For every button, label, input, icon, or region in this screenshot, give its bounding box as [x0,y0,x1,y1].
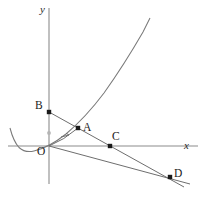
point-marker-B [47,110,51,114]
parabola-curve [10,18,150,152]
point-marker-faint [47,131,51,135]
secant-line-BACD [49,112,184,187]
point-label-C: C [112,131,120,143]
point-label-B: B [35,100,43,112]
origin-label: O [37,146,45,158]
point-label-A: A [83,122,91,134]
point-marker-A [76,126,80,130]
point-label-D: D [174,168,182,180]
point-marker-D [168,175,172,179]
point-marker-C [108,144,112,148]
x-axis-label: x [184,140,189,151]
y-axis-label: y [40,4,45,15]
geometry-figure: x y O B A C D [0,0,206,207]
